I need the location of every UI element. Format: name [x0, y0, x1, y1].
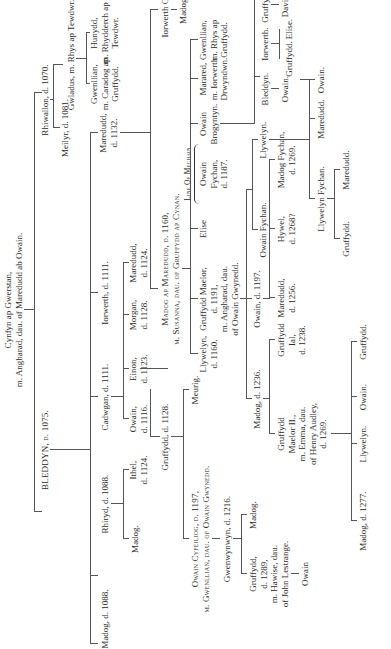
connector — [76, 58, 86, 59]
connector — [254, 0, 255, 124]
connector — [334, 238, 340, 239]
person-llywelyn-b: Llywelyn. — [258, 122, 269, 159]
connector — [183, 538, 189, 539]
person-name: Gruffydd Maelor, — [198, 262, 209, 335]
person-name: Brogyntyn. — [209, 104, 220, 145]
person-dates: d. 1191, — [209, 262, 220, 335]
connector — [150, 288, 158, 289]
person-name: Owain Cyfeiliog, d. 1197, — [190, 466, 201, 613]
person-spouse: m. Rhys ap — [209, 20, 220, 61]
person-spouse: of John Lestrange. — [280, 541, 291, 608]
person-name: Llywelyn, — [198, 336, 209, 373]
connector — [269, 228, 275, 229]
person-name: Maelor II., — [287, 403, 298, 465]
person-spouse: Tewdwr. — [110, 2, 121, 64]
connector — [111, 503, 123, 504]
person-rhiryd: Rhiryd, d. 1088. — [100, 475, 111, 534]
connector — [171, 9, 177, 10]
person-maredudd-l: Maredudd. — [316, 99, 327, 138]
connector — [246, 189, 247, 399]
connector — [252, 139, 258, 140]
person-gwenllian-caradog: Gwenllian, m. Caradog ap Gruffydd. — [89, 58, 121, 111]
person-spouse: m. Emma, dau. — [297, 403, 308, 465]
connector — [212, 538, 220, 539]
connector — [309, 79, 310, 199]
person-name: Madog ap Maredudd, d. 1160, — [160, 193, 171, 345]
connector — [309, 198, 315, 199]
person-gruffydd-maelor-ii: Gruffydd Maelor II., m. Emma, dau. of He… — [276, 403, 329, 465]
connector — [123, 262, 124, 419]
connector — [271, 43, 279, 44]
person-morgan: Morgan, d. 1128. — [128, 300, 149, 331]
person-madog-1236: Madog, d. 1236. — [252, 369, 263, 428]
person-spouse: Drwyndwn. — [219, 58, 230, 101]
connector — [150, 436, 160, 437]
person-madog-fychan: Madog Fychan, d. 1269. — [276, 132, 297, 189]
person-name: Maredudd, — [128, 243, 139, 282]
connector — [190, 174, 191, 354]
person-hunydd: Hunydd, m. Rhydderch ap Tewdwr. — [89, 2, 121, 64]
connector — [111, 396, 123, 397]
person-maredudd-lf: Maredudd. — [341, 150, 352, 189]
connector — [241, 514, 242, 574]
person-dates: d. 1116. — [139, 405, 150, 434]
connector — [140, 368, 142, 369]
connector — [34, 511, 42, 512]
connector — [123, 538, 129, 539]
person-name: Maredudd, — [276, 278, 287, 317]
person-name: Einon, — [128, 355, 139, 384]
person-dates: d. 1256. — [287, 278, 298, 317]
person-llywelyn-gm: Llywelyn. — [358, 426, 369, 463]
person-gruffydd-1289: Gruffydd, d. 1289, m. Hawise, dau. of Jo… — [248, 541, 290, 608]
person-owain-bb: Owain. — [280, 76, 291, 102]
person-owain-brogyntyn: Owain Brogyntyn. — [198, 104, 219, 145]
connector — [171, 436, 183, 437]
person-name: Owain — [198, 104, 209, 145]
person-name: Maredudd, — [98, 113, 109, 152]
connector — [190, 39, 198, 40]
connector — [53, 64, 63, 65]
person-spouse: m. Hawise, dau. — [269, 541, 280, 608]
connector — [90, 132, 98, 133]
connector — [334, 169, 340, 170]
connector — [34, 92, 35, 512]
connector — [190, 353, 198, 354]
person-llywelyn-1160: Llywelyn, d. 1160. — [198, 336, 219, 373]
person-dates: d. 1238. — [297, 323, 308, 356]
connector — [291, 573, 299, 574]
person-dates: d. 1132. — [109, 113, 120, 152]
connector — [241, 573, 247, 574]
person-spouse: m. Rhydderch ap — [100, 2, 111, 64]
connector — [269, 297, 275, 298]
connector — [351, 341, 357, 342]
connector — [53, 127, 60, 128]
connector — [252, 140, 253, 230]
connector — [269, 159, 275, 160]
person-gruffydd-ial: Gruffydd Ial, d. 1238. — [276, 323, 308, 356]
connector — [53, 64, 54, 128]
person-dates: d. 1187. — [219, 160, 230, 189]
person-iorwerth-b: Iorwerth. — [260, 27, 271, 60]
person-dates: d. 1268? — [287, 214, 298, 245]
connector — [86, 32, 87, 84]
person-rhiwallon: Rhiwallon, d. 1070. — [40, 64, 51, 135]
connector — [351, 341, 352, 521]
connector — [269, 433, 275, 434]
connector — [334, 169, 335, 239]
person-hywel: Hywel, d. 1268? — [276, 214, 297, 245]
connector — [90, 396, 98, 397]
connector — [351, 520, 357, 521]
person-madog-ig: Madog. — [178, 0, 189, 24]
person-spouse: m. Iorwerth — [209, 58, 220, 101]
person-gwenllian-rhys: Gwenllian, m. Rhys ap Gruffydd. — [198, 20, 230, 61]
person-name: Ithel, — [128, 456, 139, 485]
person-name: Ial, — [287, 323, 298, 356]
connector — [271, 88, 279, 89]
genealogy-tree: Cynfyn ap Gwerstan, m. Angharad, dau. of… — [0, 0, 391, 649]
connector — [190, 298, 198, 299]
person-name: Morgan, — [128, 300, 139, 331]
person-spouse: m. Gwenllian, dau. of Owain Gwynedd. — [201, 466, 212, 613]
person-marared: Marared, m. Iorwerth Drwyndwn. — [198, 58, 230, 101]
person-cadwgan: Cadwgan, d. 1111. — [100, 364, 111, 431]
connector — [182, 268, 190, 269]
